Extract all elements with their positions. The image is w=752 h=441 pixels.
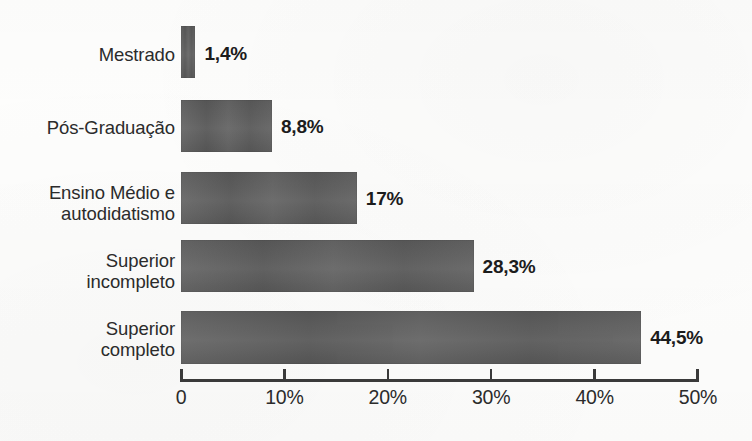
plot-area: Mestrado 1,4% Pós-Graduação 8,8% Ensino … [0,0,752,441]
x-axis-tick-40% [593,369,595,379]
bar-superior-completo [181,311,641,364]
category-label-superior-completo: Superior completo [0,318,175,360]
category-label-ensino-medio: Ensino Médio e autodidatismo [0,182,175,224]
x-axis-tick-20% [387,369,389,379]
bar-pos-graduacao [181,100,272,152]
bar-superior-incompleto [181,240,474,292]
bar-mestrado [181,26,195,78]
x-axis-right-cap [696,369,699,380]
x-axis-tick-label-50%: 50% [679,386,717,409]
value-label-ensino-medio: 17% [366,188,403,210]
value-label-pos-graduacao: 8,8% [281,116,324,138]
x-axis-tick-10% [283,369,285,379]
value-label-mestrado: 1,4% [204,43,247,65]
x-axis-tick-label-20%: 20% [369,386,407,409]
x-axis-tick-label-40%: 40% [575,386,613,409]
x-axis-tick-30% [490,369,492,379]
category-label-pos-graduacao: Pós-Graduação [0,117,175,138]
x-axis-tick-label-0: 0 [176,386,187,409]
x-axis-left-cap [180,369,183,380]
bar-chart: Mestrado 1,4% Pós-Graduação 8,8% Ensino … [0,0,752,441]
category-label-mestrado: Mestrado [0,44,175,65]
category-label-superior-incompleto: Superior incompleto [0,250,175,292]
x-axis-line [180,379,699,382]
value-label-superior-completo: 44,5% [650,327,703,349]
x-axis-tick-label-10%: 10% [265,386,303,409]
bar-ensino-medio [181,172,357,224]
x-axis-tick-label-30%: 30% [472,386,510,409]
value-label-superior-incompleto: 28,3% [483,256,536,278]
